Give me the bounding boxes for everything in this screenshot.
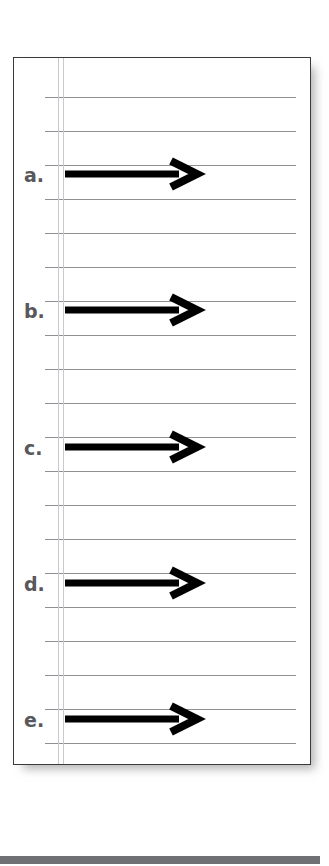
ruled-line xyxy=(45,505,296,506)
row-label-c: c. xyxy=(24,439,56,458)
ruled-line xyxy=(45,97,296,98)
ruled-line xyxy=(45,233,296,234)
worksheet-canvas: a.b.c.d.e. xyxy=(0,0,329,866)
row-label-d: d. xyxy=(24,575,56,594)
ruled-line xyxy=(45,403,296,404)
ruled-line xyxy=(45,539,296,540)
right-arrow-icon xyxy=(65,430,210,464)
margin-rule-right-line xyxy=(63,58,64,764)
right-arrow-icon xyxy=(65,566,210,600)
right-arrow-icon xyxy=(65,157,210,191)
ruled-line xyxy=(45,369,296,370)
right-arrow-icon xyxy=(65,293,210,327)
ruled-line xyxy=(45,335,296,336)
ruled-line xyxy=(45,607,296,608)
ruled-line xyxy=(45,267,296,268)
right-arrow-icon xyxy=(65,702,210,736)
row-label-e: e. xyxy=(24,711,56,730)
bottom-gray-bar xyxy=(0,856,320,864)
ruled-line xyxy=(45,675,296,676)
ruled-line xyxy=(45,743,296,744)
ruled-line xyxy=(45,641,296,642)
row-label-b: b. xyxy=(24,302,56,321)
margin-rule-left-line xyxy=(58,58,59,764)
lined-paper-sheet: a.b.c.d.e. xyxy=(13,57,311,765)
ruled-line xyxy=(45,471,296,472)
ruled-line xyxy=(45,131,296,132)
ruled-line xyxy=(45,199,296,200)
row-label-a: a. xyxy=(24,166,56,185)
